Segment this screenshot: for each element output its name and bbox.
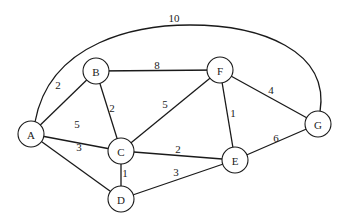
node-label: F <box>217 65 223 77</box>
node-label: G <box>314 119 322 131</box>
weight-F-G: 4 <box>268 84 274 96</box>
node-label: E <box>232 155 239 167</box>
node-label: C <box>117 146 124 158</box>
weight-C-E: 2 <box>175 143 181 155</box>
node-label: B <box>92 66 99 78</box>
weight-F-E: 1 <box>230 107 236 119</box>
weight-C-D: 1 <box>122 167 128 179</box>
node-D: D <box>108 186 134 212</box>
weight-A-C: 5 <box>74 118 80 130</box>
weight-A-D: 3 <box>76 141 82 153</box>
node-E: E <box>222 147 248 173</box>
node-F: F <box>207 57 233 83</box>
weight-A-B: 2 <box>55 79 61 91</box>
weight-A-G: 10 <box>169 12 181 24</box>
weight-C-F: 5 <box>162 98 168 110</box>
node-label: A <box>27 129 35 141</box>
weight-B-F: 8 <box>154 59 160 71</box>
weight-E-G: 6 <box>273 132 279 144</box>
weight-D-E: 3 <box>173 166 179 178</box>
edge-C-F <box>121 70 220 151</box>
edge-A-G <box>35 25 321 122</box>
node-A: A <box>18 121 44 147</box>
node-B: B <box>83 58 109 84</box>
nodes: ABCDEFG <box>18 57 331 212</box>
node-G: G <box>305 111 331 137</box>
node-label: D <box>117 194 125 206</box>
node-C: C <box>108 138 134 164</box>
weight-B-C: 2 <box>109 102 115 114</box>
weighted-graph: 25328512314610 ABCDEFG <box>0 0 348 223</box>
